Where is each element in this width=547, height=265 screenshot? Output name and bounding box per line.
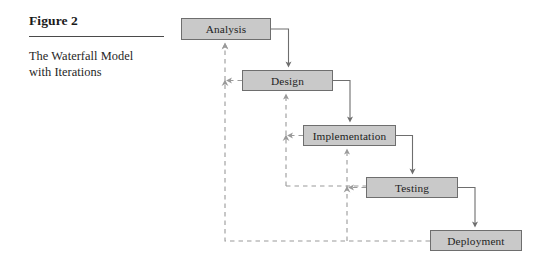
node-implementation[interactable]: Implementation xyxy=(303,125,396,146)
figure-root: Figure 2 The Waterfall Model with Iterat… xyxy=(0,0,547,265)
edge-testing-to-deployment xyxy=(458,188,475,225)
node-design[interactable]: Design xyxy=(242,70,333,91)
node-testing[interactable]: Testing xyxy=(366,177,458,198)
edge-implementation-to-testing xyxy=(396,136,413,172)
flowchart-connectors-svg xyxy=(0,0,547,265)
node-analysis-label: Analysis xyxy=(206,23,247,35)
edge-analysis-to-design xyxy=(271,29,289,65)
node-design-label: Design xyxy=(271,75,304,87)
node-implementation-label: Implementation xyxy=(313,130,387,142)
node-deployment[interactable]: Deployment xyxy=(430,230,522,251)
arrowhead-spine-testing xyxy=(344,186,351,193)
waterfall-flowchart: Analysis Design Implementation Testing D… xyxy=(0,0,547,265)
edge-design-to-implementation xyxy=(333,81,350,120)
arrowhead-spine-analysis xyxy=(222,43,229,50)
node-deployment-label: Deployment xyxy=(447,235,504,247)
node-analysis[interactable]: Analysis xyxy=(181,18,271,40)
node-testing-label: Testing xyxy=(395,182,429,194)
